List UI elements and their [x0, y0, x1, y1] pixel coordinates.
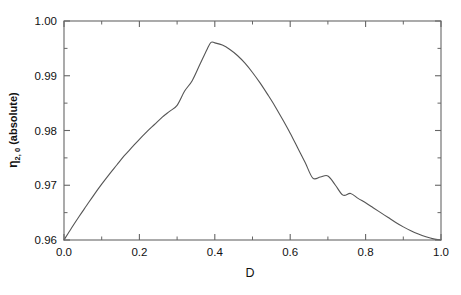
- y-axis-title: η2, 0 (absolute): [6, 92, 22, 168]
- y-axis-title-symbol: η2, 0 (absolute): [6, 92, 22, 168]
- eta-subscript: 2, 0: [13, 148, 22, 161]
- x-tick-label: 0.4: [207, 246, 224, 258]
- x-axis-tick-labels: 0.00.20.40.60.81.0: [56, 246, 449, 258]
- y-tick-label: 0.97: [35, 179, 57, 191]
- y-tick-label: 0.98: [35, 125, 57, 137]
- y-tick-label: 0.96: [35, 234, 57, 246]
- y-axis-title-suffix: (absolute): [7, 92, 19, 148]
- x-tick-label: 1.0: [433, 246, 449, 258]
- x-tick-label: 0.8: [358, 246, 374, 258]
- eta-glyph: η: [6, 160, 20, 167]
- x-tick-label: 0.2: [131, 246, 147, 258]
- y-axis-tick-labels: 0.960.970.980.991.00: [35, 15, 57, 246]
- plot-background: [64, 21, 441, 240]
- x-axis-title: D: [245, 266, 254, 280]
- chart-figure: 0.00.20.40.60.81.0 0.960.970.980.991.00 …: [0, 0, 461, 295]
- x-tick-label: 0.0: [56, 246, 72, 258]
- line-chart: 0.00.20.40.60.81.0 0.960.970.980.991.00 …: [0, 0, 461, 295]
- x-tick-label: 0.6: [282, 246, 298, 258]
- y-tick-label: 1.00: [35, 15, 57, 27]
- y-tick-label: 0.99: [35, 70, 57, 82]
